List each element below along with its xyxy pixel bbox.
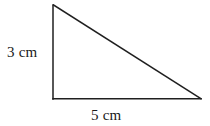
horizontal-leg-length-label: 5 cm (91, 108, 121, 123)
hypotenuse-line (54, 5, 202, 99)
vertical-leg-length-label: 3 cm (7, 45, 37, 60)
figure-canvas: 3 cm 5 cm (0, 0, 210, 126)
